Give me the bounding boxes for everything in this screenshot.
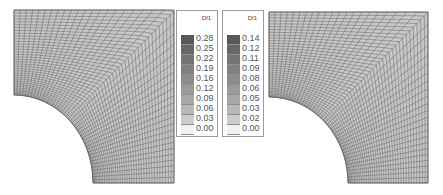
legend-swatch xyxy=(181,65,194,75)
legend-label: 0.02 xyxy=(242,113,260,123)
legend-label: 0.05 xyxy=(242,93,260,103)
legend-swatch xyxy=(181,115,194,125)
legend-label: 0.03 xyxy=(196,113,214,123)
legend-label: 0.14 xyxy=(242,33,260,43)
legend-swatch xyxy=(181,55,194,65)
legend-title-1: Df1 xyxy=(202,15,211,21)
legend-swatch xyxy=(181,125,194,135)
legend-swatch xyxy=(227,35,240,45)
legend-swatch xyxy=(227,85,240,95)
legend-swatch xyxy=(227,105,240,115)
legend-label: 0.00 xyxy=(242,123,260,133)
legend-labels-2: 0.14 0.12 0.11 0.09 0.08 0.06 0.05 0.03 … xyxy=(242,33,260,133)
legend-swatch xyxy=(181,105,194,115)
legend-label: 0.06 xyxy=(242,83,260,93)
legend-label: 0.12 xyxy=(196,83,214,93)
legend-swatch xyxy=(181,35,194,45)
legend-box-2: Df1 0.14 0.12 0.11 0.09 0.08 0.06 0.05 0… xyxy=(222,10,264,137)
legend-swatch xyxy=(181,45,194,55)
legend-label: 0.03 xyxy=(242,103,260,113)
legend-swatch xyxy=(227,75,240,85)
legend-swatch xyxy=(181,95,194,105)
legend-swatch xyxy=(181,85,194,95)
right-mesh-plot xyxy=(266,0,443,195)
legend-label: 0.25 xyxy=(196,43,214,53)
legend-label: 0.12 xyxy=(242,43,260,53)
legend-label: 0.19 xyxy=(196,63,214,73)
legend-label: 0.09 xyxy=(196,93,214,103)
legend-swatch xyxy=(181,75,194,85)
legend-swatch xyxy=(227,45,240,55)
legend-label: 0.28 xyxy=(196,33,214,43)
legend-title-2: Df1 xyxy=(248,15,257,21)
legend-label: 0.06 xyxy=(196,103,214,113)
legend-box-1: Df1 0.28 0.25 0.22 0.19 0.16 0.12 0.09 0… xyxy=(176,10,218,137)
legend-swatch xyxy=(227,65,240,75)
legend-label: 0.11 xyxy=(242,53,260,63)
legend-swatch xyxy=(227,125,240,135)
legend-swatch xyxy=(227,115,240,125)
legend-swatches-2 xyxy=(227,35,240,135)
legend-label: 0.09 xyxy=(242,63,260,73)
legend-label: 0.00 xyxy=(196,123,214,133)
legend-label: 0.08 xyxy=(242,73,260,83)
legend-label: 0.16 xyxy=(196,73,214,83)
legend-label: 0.22 xyxy=(196,53,214,63)
legend-labels-1: 0.28 0.25 0.22 0.19 0.16 0.12 0.09 0.06 … xyxy=(196,33,214,133)
legend-swatches-1 xyxy=(181,35,194,135)
legend-swatch xyxy=(227,55,240,65)
legend-swatch xyxy=(227,95,240,105)
left-mesh-plot xyxy=(0,0,176,195)
